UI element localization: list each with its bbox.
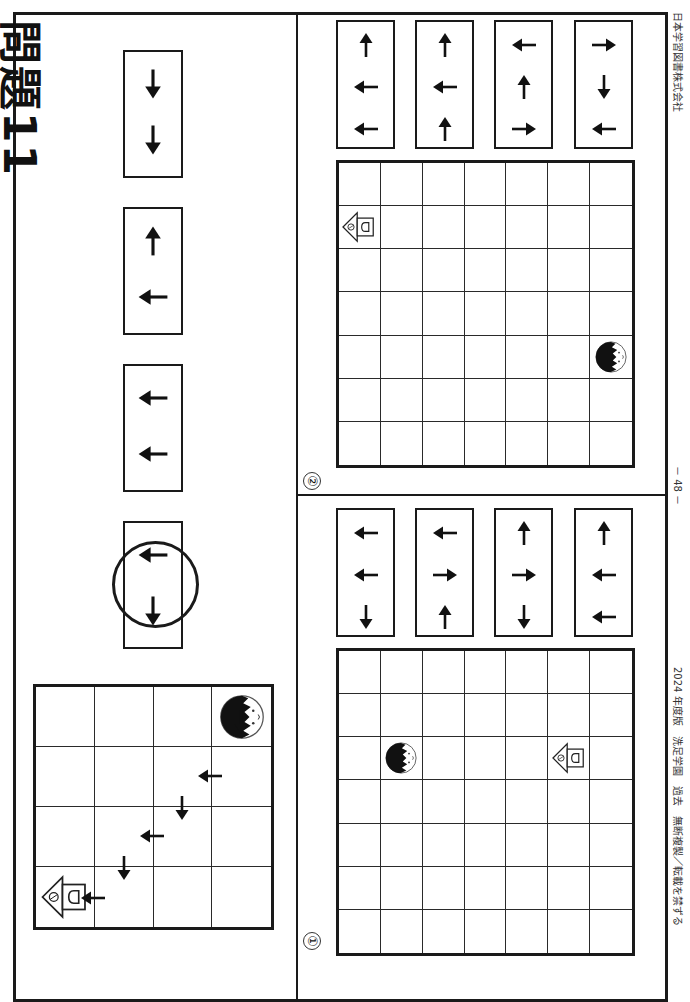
- grid-cell[interactable]: [465, 737, 507, 780]
- grid-cell[interactable]: [381, 206, 423, 249]
- grid-cell[interactable]: [548, 422, 590, 465]
- grid-cell[interactable]: [339, 867, 381, 910]
- grid-cell[interactable]: [381, 336, 423, 379]
- grid-cell[interactable]: [506, 422, 548, 465]
- grid-cell[interactable]: [506, 163, 548, 206]
- grid-cell[interactable]: [465, 379, 507, 422]
- grid-cell[interactable]: [339, 422, 381, 465]
- grid-cell[interactable]: [506, 780, 548, 823]
- grid-cell[interactable]: [465, 651, 507, 694]
- grid-cell[interactable]: [381, 379, 423, 422]
- grid-cell[interactable]: [548, 694, 590, 737]
- grid-cell[interactable]: [506, 379, 548, 422]
- grid-cell[interactable]: [506, 737, 548, 780]
- grid-cell[interactable]: [423, 292, 465, 335]
- grid-cell[interactable]: [465, 824, 507, 867]
- grid-cell[interactable]: [590, 694, 632, 737]
- grid-cell[interactable]: [590, 780, 632, 823]
- grid-cell[interactable]: [423, 336, 465, 379]
- grid-cell[interactable]: [381, 867, 423, 910]
- grid-cell[interactable]: [548, 824, 590, 867]
- grid-cell[interactable]: [590, 379, 632, 422]
- grid-cell[interactable]: [423, 694, 465, 737]
- grid-cell[interactable]: [381, 163, 423, 206]
- grid-cell[interactable]: [548, 780, 590, 823]
- grid-cell[interactable]: [339, 694, 381, 737]
- grid-cell[interactable]: [506, 292, 548, 335]
- grid-cell[interactable]: [590, 824, 632, 867]
- grid-cell[interactable]: [465, 694, 507, 737]
- grid-cell[interactable]: [465, 780, 507, 823]
- grid-cell[interactable]: [465, 422, 507, 465]
- grid-cell[interactable]: [590, 292, 632, 335]
- grid-cell[interactable]: [423, 379, 465, 422]
- choice-card-1[interactable]: [336, 20, 395, 149]
- grid-cell[interactable]: [339, 780, 381, 823]
- grid-cell[interactable]: [506, 910, 548, 953]
- grid-cell[interactable]: [339, 336, 381, 379]
- grid-cell[interactable]: [36, 747, 95, 807]
- choice-card-3[interactable]: [494, 508, 553, 637]
- grid-cell[interactable]: [423, 651, 465, 694]
- grid-cell[interactable]: [381, 292, 423, 335]
- grid-cell[interactable]: [339, 206, 381, 249]
- grid-cell[interactable]: [465, 163, 507, 206]
- grid-cell[interactable]: [154, 687, 213, 747]
- grid-cell[interactable]: [381, 249, 423, 292]
- grid-cell[interactable]: [339, 249, 381, 292]
- grid-cell[interactable]: [548, 336, 590, 379]
- grid-cell[interactable]: [423, 206, 465, 249]
- grid-cell[interactable]: [506, 824, 548, 867]
- grid-cell[interactable]: [36, 687, 95, 747]
- grid-cell[interactable]: [339, 910, 381, 953]
- grid-cell[interactable]: [590, 910, 632, 953]
- grid-cell[interactable]: [590, 336, 632, 379]
- grid-cell[interactable]: [465, 336, 507, 379]
- grid-cell[interactable]: [590, 163, 632, 206]
- choice-card-3[interactable]: [494, 20, 553, 149]
- grid-cell[interactable]: [423, 422, 465, 465]
- grid-cell[interactable]: [423, 249, 465, 292]
- grid-cell[interactable]: [465, 206, 507, 249]
- grid-cell[interactable]: [95, 747, 154, 807]
- grid-cell[interactable]: [95, 687, 154, 747]
- grid-cell[interactable]: [212, 807, 271, 867]
- grid-cell[interactable]: [548, 737, 590, 780]
- grid-cell[interactable]: [339, 292, 381, 335]
- grid-cell[interactable]: [381, 824, 423, 867]
- grid-cell[interactable]: [590, 867, 632, 910]
- grid-cell[interactable]: [548, 379, 590, 422]
- grid-cell[interactable]: [423, 824, 465, 867]
- grid-cell[interactable]: [339, 824, 381, 867]
- grid-cell[interactable]: [506, 249, 548, 292]
- grid-cell[interactable]: [423, 737, 465, 780]
- grid-cell[interactable]: [506, 206, 548, 249]
- grid-cell[interactable]: [339, 379, 381, 422]
- choice-card-2[interactable]: [415, 508, 474, 637]
- grid-cell[interactable]: [506, 651, 548, 694]
- grid-cell[interactable]: [590, 422, 632, 465]
- grid-cell[interactable]: [381, 694, 423, 737]
- grid-cell[interactable]: [465, 910, 507, 953]
- grid-cell[interactable]: [506, 694, 548, 737]
- choice-card-4[interactable]: [574, 508, 633, 637]
- grid-cell[interactable]: [548, 651, 590, 694]
- grid-cell[interactable]: [506, 867, 548, 910]
- grid-cell[interactable]: [381, 910, 423, 953]
- grid-cell[interactable]: [339, 737, 381, 780]
- grid-cell[interactable]: [548, 910, 590, 953]
- grid-cell[interactable]: [36, 807, 95, 867]
- grid-cell[interactable]: [465, 867, 507, 910]
- grid-cell[interactable]: [548, 867, 590, 910]
- grid-cell[interactable]: [548, 249, 590, 292]
- grid-cell[interactable]: [465, 249, 507, 292]
- grid-cell[interactable]: [339, 651, 381, 694]
- grid-cell[interactable]: [423, 163, 465, 206]
- grid-cell[interactable]: [590, 737, 632, 780]
- grid-cell[interactable]: [548, 163, 590, 206]
- grid-cell[interactable]: [154, 867, 213, 927]
- grid-cell[interactable]: [381, 780, 423, 823]
- grid-cell[interactable]: [590, 651, 632, 694]
- grid-cell[interactable]: [423, 910, 465, 953]
- grid-cell[interactable]: [465, 292, 507, 335]
